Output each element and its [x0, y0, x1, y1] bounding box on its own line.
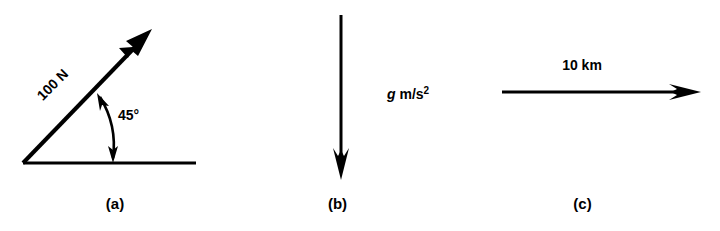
acceleration-units-b: m/s — [396, 86, 424, 102]
panel-caption-c: (c) — [445, 195, 720, 212]
vector-diagram-figure: 100 N 45° (a) g m/s2 (b) 10 km ( — [0, 0, 720, 231]
angle-label-a: 45° — [118, 107, 139, 123]
force-magnitude-label-a: 100 N — [34, 66, 72, 104]
panel-a: 100 N 45° (a) — [0, 0, 230, 231]
angle-arc-a — [100, 97, 114, 158]
acceleration-magnitude-label-b: g m/s2 — [352, 81, 445, 102]
panel-caption-b: (b) — [230, 195, 445, 212]
gravity-vector-arrowhead-b — [333, 148, 349, 180]
displacement-vector-arrowhead-c — [669, 84, 701, 100]
acceleration-symbol-b: g — [386, 86, 396, 102]
acceleration-units-exponent-b: 2 — [424, 85, 430, 96]
panel-caption-a: (a) — [0, 195, 230, 212]
displacement-magnitude-label-c: 10 km — [562, 57, 602, 73]
force-vector-arrowhead-a — [119, 29, 152, 58]
panel-b: g m/s2 (b) — [230, 0, 445, 231]
force-vector-shaft-a — [23, 42, 140, 163]
panel-c: 10 km (c) — [445, 0, 720, 231]
